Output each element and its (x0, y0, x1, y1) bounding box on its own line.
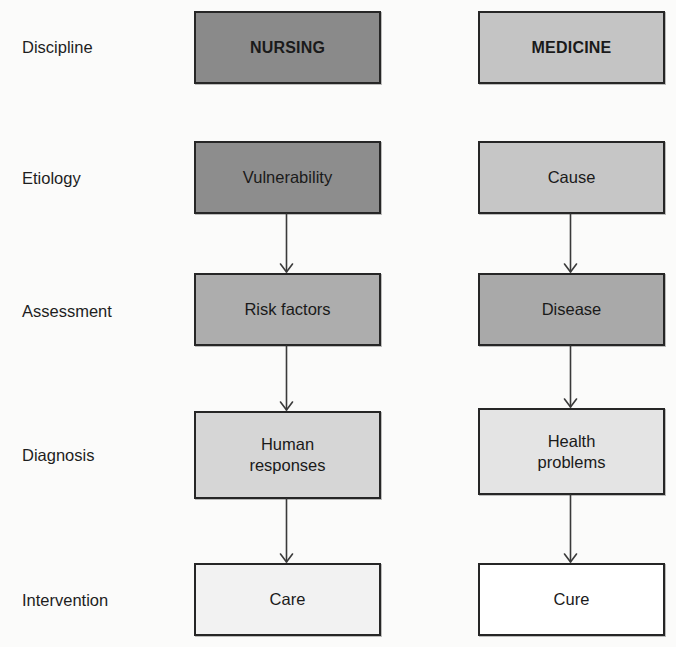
arrow-down-icon (281, 499, 293, 562)
nursing-intervention-box: Care (194, 563, 381, 636)
arrow-down-icon (281, 214, 293, 272)
row-label-assessment: Assessment (22, 302, 112, 321)
row-label-diagnosis: Diagnosis (22, 446, 94, 465)
box-text: Cause (548, 167, 596, 188)
box-text: Risk factors (244, 299, 330, 320)
nursing-assessment-box: Risk factors (194, 273, 381, 346)
diagram-canvas: Discipline Etiology Assessment Diagnosis… (0, 0, 676, 647)
medicine-diagnosis-box: Health problems (478, 408, 665, 495)
nursing-diagnosis-box: Human responses (194, 411, 381, 499)
arrow-down-icon (565, 346, 577, 407)
box-text-line2: responses (249, 455, 325, 476)
row-label-intervention: Intervention (22, 591, 108, 610)
box-text: Cure (554, 589, 590, 610)
row-label-discipline: Discipline (22, 38, 93, 57)
box-text: NURSING (250, 37, 325, 58)
arrow-down-icon (565, 214, 577, 272)
medicine-etiology-box: Cause (478, 141, 665, 214)
box-text-line1: Health (538, 431, 606, 452)
box-text: Disease (542, 299, 602, 320)
box-text: Vulnerability (243, 167, 332, 188)
medicine-discipline-box: MEDICINE (478, 11, 665, 84)
arrow-down-icon (565, 495, 577, 562)
box-text-line1: Human (249, 434, 325, 455)
medicine-assessment-box: Disease (478, 273, 665, 346)
row-label-etiology: Etiology (22, 169, 81, 188)
arrow-down-icon (281, 346, 293, 410)
box-text-line2: problems (538, 452, 606, 473)
box-text: Care (270, 589, 306, 610)
nursing-discipline-box: NURSING (194, 11, 381, 84)
nursing-etiology-box: Vulnerability (194, 141, 381, 214)
box-text: MEDICINE (532, 37, 612, 58)
medicine-intervention-box: Cure (478, 563, 665, 636)
